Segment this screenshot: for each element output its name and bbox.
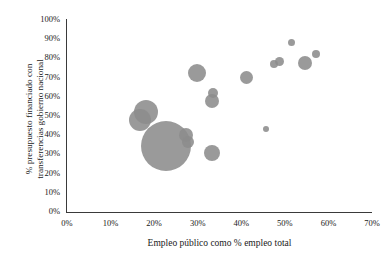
data-point-bubble xyxy=(182,136,194,148)
y-axis-title: % presupuesto financiado con transferenc… xyxy=(24,14,46,224)
x-tick-label: 20% xyxy=(134,219,174,228)
x-tick-label: 0% xyxy=(47,219,87,228)
plot-area xyxy=(67,20,372,212)
data-point-bubble xyxy=(188,64,206,82)
data-point-bubble xyxy=(298,56,312,70)
data-point-bubble xyxy=(240,71,253,84)
data-point-bubble xyxy=(263,126,269,132)
x-tick-label: 50% xyxy=(265,219,305,228)
data-point-bubble xyxy=(204,145,220,161)
x-tick-label: 60% xyxy=(308,219,348,228)
x-tick-label: 70% xyxy=(352,219,389,228)
x-axis-title: Empleo público como % empleo total xyxy=(67,238,372,248)
x-tick-label: 40% xyxy=(221,219,261,228)
y-axis-title-line-2: transferencias gobierno nacional xyxy=(35,14,46,224)
data-point-bubble xyxy=(288,39,295,46)
x-tick-label: 30% xyxy=(178,219,218,228)
data-point-bubble xyxy=(312,50,320,58)
y-axis-title-line-1: % presupuesto financiado con xyxy=(24,14,35,224)
x-tick-label: 10% xyxy=(91,219,131,228)
x-axis-line xyxy=(66,212,372,213)
data-point-bubble xyxy=(205,94,219,108)
data-point-bubble xyxy=(275,57,284,66)
bubble-chart: 0%10%20%30%40%50%60%70%80%90%100% 0%10%2… xyxy=(0,0,389,264)
